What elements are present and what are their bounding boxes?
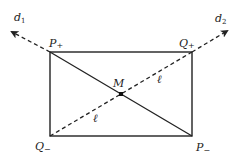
label-p-minus: P−	[195, 141, 210, 155]
label-d1: d1	[14, 11, 26, 25]
label-ell-lower: ℓ	[93, 112, 98, 125]
arrow-d1	[12, 32, 50, 52]
midpoint-dot	[119, 92, 123, 96]
label-q-minus: Q−	[35, 140, 51, 154]
label-m: M	[112, 77, 125, 90]
arrow-d2	[192, 31, 227, 52]
label-p-plus: P+	[48, 37, 63, 50]
label-ell-upper: ℓ	[157, 73, 162, 86]
diagram-canvas: d1 d2 P+ Q+ Q− P− M ℓ ℓ	[0, 0, 231, 159]
label-q-plus: Q+	[179, 37, 195, 50]
label-d2: d2	[215, 12, 227, 26]
